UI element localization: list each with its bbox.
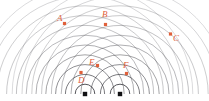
wavefront-arc xyxy=(0,0,193,94)
marker-label-c: C xyxy=(173,33,180,43)
marker-label-f: F xyxy=(122,60,129,70)
wavefronts-left-source xyxy=(0,0,193,94)
marker-dot-f xyxy=(125,72,128,75)
marker-dot-e xyxy=(96,64,99,67)
wavefront-arc xyxy=(71,45,169,94)
wave-source-point xyxy=(83,92,87,96)
marker-dot-b xyxy=(104,23,107,26)
marker-points xyxy=(63,22,172,75)
marker-label-a: A xyxy=(56,13,63,23)
wave-source-point xyxy=(118,92,122,96)
marker-dot-c xyxy=(169,32,172,35)
wavefront-arc xyxy=(36,45,134,94)
wave-interference-figure: ABCDEF xyxy=(0,0,209,101)
interference-diagram-canvas: ABCDEF xyxy=(0,0,209,101)
wavefront-arc xyxy=(0,6,173,94)
wavefront-arc xyxy=(22,0,209,94)
source-points xyxy=(83,92,122,96)
marker-dot-a xyxy=(63,22,66,25)
marker-label-d: D xyxy=(77,75,85,85)
marker-label-b: B xyxy=(102,9,108,19)
marker-label-e: E xyxy=(88,57,95,67)
marker-dot-d xyxy=(79,71,82,74)
marker-labels: ABCDEF xyxy=(56,9,180,85)
wavefront-arc xyxy=(91,65,150,94)
wavefront-arc xyxy=(56,65,115,94)
